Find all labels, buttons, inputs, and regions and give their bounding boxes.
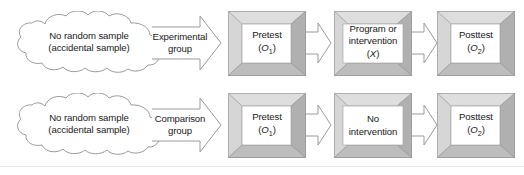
cloud-line-2: (accidental sample) — [48, 124, 129, 136]
cloud-line-2: (accidental sample) — [48, 42, 129, 54]
flow-arrow-pretest-to-no-intervention-comparison — [306, 104, 332, 146]
stage-box-label: Posttest (O2) — [437, 93, 515, 158]
assignment-arrow-label: Comparison group — [152, 97, 208, 153]
assignment-line-2: group — [168, 125, 192, 137]
stage-line-1: Program or — [350, 23, 397, 35]
assignment-line-2: group — [168, 43, 192, 55]
stage-box-label: Pretest (O1) — [228, 93, 306, 158]
cloud-line-1: No random sample — [49, 112, 128, 124]
stage-box-pretest-experimental: Pretest (O1) — [228, 11, 306, 76]
assignment-arrow-label: Experimental group — [152, 15, 208, 71]
cloud-no-random-sample-experimental: No random sample (accidental sample) — [14, 11, 164, 73]
stage-line-1: Pretest — [252, 29, 282, 41]
cloud-line-1: No random sample — [49, 30, 128, 42]
block-arrow-right-icon — [412, 22, 438, 64]
cloud-label: No random sample (accidental sample) — [14, 11, 164, 73]
stage-box-no-intervention-comparison: No intervention — [334, 93, 412, 158]
assignment-arrow-comparison: Comparison group — [152, 97, 222, 153]
stage-line-1: Pretest — [252, 111, 282, 123]
stage-symbol: (X) — [367, 48, 380, 64]
cloud-no-random-sample-comparison: No random sample (accidental sample) — [14, 93, 164, 155]
flow-arrow-treatment-to-posttest-experimental — [412, 22, 438, 64]
stage-box-label: Program or intervention (X) — [334, 11, 412, 76]
stage-symbol: (O1) — [258, 124, 276, 140]
stage-box-label: Pretest (O1) — [228, 11, 306, 76]
stage-box-posttest-comparison: Posttest (O2) — [437, 93, 515, 158]
assignment-arrow-experimental: Experimental group — [152, 15, 222, 71]
flow-arrow-pretest-to-treatment-experimental — [306, 22, 332, 64]
stage-line-2: intervention — [349, 126, 397, 138]
assignment-line-1: Experimental — [153, 31, 208, 43]
flow-arrow-no-intervention-to-posttest-comparison — [412, 104, 438, 146]
bottom-divider — [0, 166, 524, 167]
stage-symbol: (O2) — [467, 42, 485, 58]
stage-symbol: (O1) — [258, 42, 276, 58]
assignment-line-1: Comparison — [155, 113, 206, 125]
block-arrow-right-icon — [412, 104, 438, 146]
stage-box-label: Posttest (O2) — [437, 11, 515, 76]
stage-box-treatment-experimental: Program or intervention (X) — [334, 11, 412, 76]
block-arrow-right-icon — [306, 104, 332, 146]
stage-line-1: Posttest — [459, 111, 493, 123]
stage-box-label: No intervention — [334, 93, 412, 158]
stage-line-1: Posttest — [459, 29, 493, 41]
design-diagram: No random sample (accidental sample) Exp… — [0, 0, 524, 175]
stage-line-2: intervention — [349, 35, 397, 47]
stage-symbol: (O2) — [467, 124, 485, 140]
stage-line-1: No — [367, 113, 379, 125]
block-arrow-right-icon — [306, 22, 332, 64]
cloud-label: No random sample (accidental sample) — [14, 93, 164, 155]
stage-box-posttest-experimental: Posttest (O2) — [437, 11, 515, 76]
stage-box-pretest-comparison: Pretest (O1) — [228, 93, 306, 158]
